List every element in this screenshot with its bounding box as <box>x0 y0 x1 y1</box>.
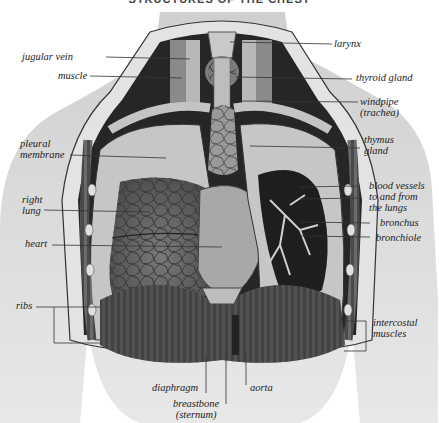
chest-anatomy-diagram: STRUCTURES OF THE CHEST <box>0 0 439 423</box>
label-aorta: aorta <box>250 382 273 393</box>
label-bronchiole: bronchiole <box>376 232 421 243</box>
label-ribs: ribs <box>16 300 32 311</box>
label-heart: heart <box>25 238 47 249</box>
label-windpipe-line2: (trachea) <box>360 107 399 118</box>
label-windpipe-line1: windpipe <box>360 96 399 107</box>
label-thymus-line2: gland <box>364 145 394 156</box>
label-blood-vessels-line2: to and from <box>369 191 425 202</box>
label-thymus-gland: thymus gland <box>364 134 394 156</box>
label-blood-vessels: blood vessels to and from the lungs <box>369 180 425 213</box>
label-muscle: muscle <box>58 70 87 81</box>
label-blood-vessels-line3: the lungs <box>369 202 425 213</box>
label-intercostal-muscles: intercostal muscles <box>373 317 418 339</box>
label-right-lung-line2: lung <box>22 205 42 216</box>
label-bronchus: bronchus <box>380 217 419 228</box>
label-larynx: larynx <box>334 38 361 49</box>
label-thymus-line1: thymus <box>364 134 394 145</box>
label-intercostal-line1: intercostal <box>373 317 418 328</box>
label-breastbone-line2: (sternum) <box>173 409 219 420</box>
label-windpipe: windpipe (trachea) <box>360 96 399 118</box>
label-jugular-vein: jugular vein <box>22 51 73 62</box>
label-breastbone: breastbone (sternum) <box>173 398 219 420</box>
label-breastbone-line1: breastbone <box>173 398 219 409</box>
label-diaphragm: diaphragm <box>152 382 198 393</box>
label-intercostal-line2: muscles <box>373 328 418 339</box>
label-blood-vessels-line1: blood vessels <box>369 180 425 191</box>
label-pleural-line2: membrane <box>20 149 64 160</box>
label-right-lung-line1: right <box>22 194 42 205</box>
label-pleural-membrane: pleural membrane <box>20 138 64 160</box>
label-pleural-line1: pleural <box>20 138 64 149</box>
label-thyroid-gland: thyroid gland <box>356 72 412 83</box>
label-right-lung: right lung <box>22 194 42 216</box>
